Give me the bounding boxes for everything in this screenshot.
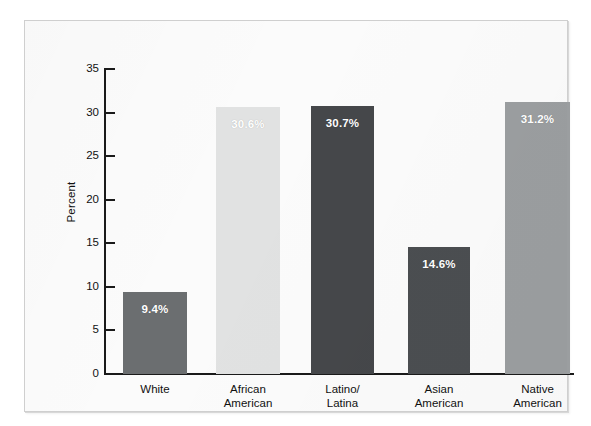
bar-value-label: 31.2% [505,113,570,125]
bar-value-label: 9.4% [123,303,187,315]
x-axis-category-label: NativeAmerican [483,383,591,410]
bar[interactable]: 30.6% [216,107,280,374]
x-axis-category-label-line: Native [483,383,591,397]
x-axis-category-label-line: American [194,397,302,411]
x-axis-category-label: AfricanAmerican [194,383,302,410]
bar-value-label: 14.6% [408,258,470,270]
bar[interactable]: 31.2% [505,102,570,374]
bar-value-label: 30.7% [311,117,374,129]
x-axis-category-label-line: Latino/ [289,383,396,397]
x-axis-category-label-line: White [101,383,209,397]
x-axis-category-label-line: American [386,397,492,411]
figure-frame: Percent 05101520253035 9.4%30.6%30.7%14.… [24,20,568,412]
x-axis-category-label-line: Latina [289,397,396,411]
bar[interactable]: 30.7% [311,106,374,374]
x-axis-category-label-line: African [194,383,302,397]
bar[interactable]: 14.6% [408,247,470,374]
x-axis-category-label-line: American [483,397,591,411]
bar[interactable]: 9.4% [123,292,187,374]
plot-area: 9.4%30.6%30.7%14.6%31.2% [25,21,567,411]
x-axis-category-label: AsianAmerican [386,383,492,410]
x-axis-category-label: White [101,383,209,397]
x-axis-category-label-line: Asian [386,383,492,397]
x-axis-category-label: Latino/Latina [289,383,396,410]
bar-value-label: 30.6% [216,118,280,130]
